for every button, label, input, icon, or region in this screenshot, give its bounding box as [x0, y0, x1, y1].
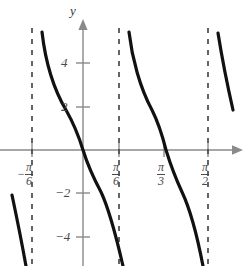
x-tick-label-pi-over-2: π 2 [201, 161, 209, 187]
y-tick-label-minus-2: −2 [55, 186, 70, 199]
x-tick-label-pi-over-6: π 6 [112, 161, 120, 187]
fraction-numerator: π [112, 161, 120, 175]
fraction-pi-over-6: π 6 [25, 161, 33, 187]
curve-branch-right-partial [218, 33, 233, 110]
curve-group [12, 32, 233, 266]
y-axis-label: y [70, 4, 76, 17]
curve-branch-left-partial [12, 195, 26, 266]
fraction-denominator: 6 [112, 175, 120, 188]
fraction-numerator: π [157, 161, 165, 175]
fraction-denominator: 3 [157, 175, 165, 188]
fraction-pi-over-6: π 6 [112, 161, 120, 187]
y-tick-label-minus-4: −4 [55, 230, 70, 243]
x-tick-label-pi-over-3: π 3 [157, 161, 165, 187]
x-axis-arrowhead [232, 145, 243, 155]
fraction-denominator: 6 [25, 175, 33, 188]
minus-sign: − [17, 168, 25, 180]
y-tick-label-4: 4 [61, 56, 68, 69]
fraction-pi-over-3: π 3 [157, 161, 165, 187]
fraction-numerator: π [201, 161, 209, 175]
y-axis-arrowhead [78, 19, 87, 30]
plot-canvas [0, 0, 247, 266]
y-tick-label-2: 2 [61, 100, 68, 113]
fraction-numerator: π [25, 161, 33, 175]
fraction-denominator: 2 [201, 175, 209, 188]
fraction-pi-over-2: π 2 [201, 161, 209, 187]
x-tick-label-minus-pi-over-6: − π 6 [17, 161, 33, 187]
graph-figure: y 4 2 −2 −4 − π 6 π 6 π 3 π 2 [0, 0, 247, 266]
curve-branch-2 [129, 32, 203, 266]
